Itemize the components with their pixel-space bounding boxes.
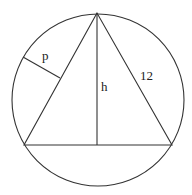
label-side-12: 12 [140, 68, 153, 83]
label-p: p [42, 48, 49, 63]
label-h: h [101, 79, 108, 94]
diagram-canvas: p h 12 [0, 0, 192, 195]
circumscribed-circle [12, 14, 184, 186]
